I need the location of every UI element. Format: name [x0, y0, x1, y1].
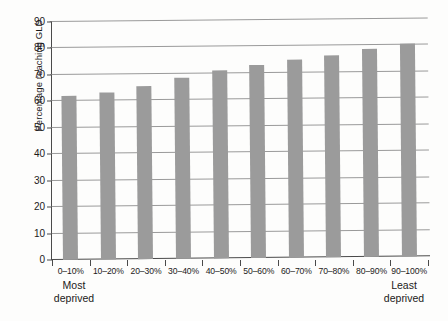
- bar-slot-30–40%: [162, 21, 202, 259]
- bar-slot-60–70%: [275, 19, 315, 257]
- plot-area: 0102030405060708090: [52, 22, 428, 260]
- bar[interactable]: [400, 44, 417, 257]
- bar-series: [50, 18, 428, 260]
- y-tick-label-0: 0: [6, 255, 52, 265]
- x-tick-label-10–20%: 10–20%: [90, 266, 128, 276]
- bar[interactable]: [362, 49, 379, 257]
- bar-slot-70–80%: [313, 19, 353, 257]
- x-tick-label-20–30%: 20–30%: [127, 266, 165, 276]
- y-tick-label-90: 90: [6, 17, 52, 27]
- annotation-least-deprived-line1: Least: [366, 279, 442, 292]
- bar[interactable]: [287, 59, 304, 257]
- annotation-least-deprived-line2: deprived: [366, 292, 442, 305]
- bar[interactable]: [324, 55, 341, 257]
- bar[interactable]: [249, 65, 266, 258]
- x-axis-tick-labels: 0–10%10–20%20–30%30–40%40–50%50–60%60–70…: [52, 266, 428, 276]
- y-tick-label-20: 20: [6, 202, 52, 212]
- x-tick-label-0–10%: 0–10%: [52, 266, 90, 276]
- y-tick-label-40: 40: [6, 149, 52, 159]
- grid-and-bars-layer: [50, 18, 428, 260]
- x-tick-label-60–70%: 60–70%: [278, 266, 316, 276]
- annotation-most-deprived-line1: Most: [38, 279, 110, 292]
- bar[interactable]: [137, 86, 154, 259]
- bar-slot-20–30%: [125, 21, 165, 259]
- figure-page: Percentage reaching GLD 0102030405060708…: [0, 0, 448, 321]
- bar-slot-50–60%: [238, 20, 278, 258]
- y-tick-label-30: 30: [6, 176, 52, 186]
- annotation-most-deprived-line2: deprived: [38, 292, 110, 305]
- bar[interactable]: [212, 71, 229, 259]
- y-tick-label-10: 10: [6, 229, 52, 239]
- x-tick-mark-10: [428, 260, 429, 266]
- x-tick-label-40–50%: 40–50%: [202, 266, 240, 276]
- bar-slot-0–10%: [50, 22, 90, 260]
- bar-slot-80–90%: [350, 19, 390, 257]
- y-tick-label-60: 60: [6, 96, 52, 106]
- bar[interactable]: [99, 93, 116, 260]
- bar-slot-10–20%: [87, 21, 127, 259]
- y-tick-label-80: 80: [6, 43, 52, 53]
- x-axis-line: [52, 260, 428, 261]
- bar[interactable]: [62, 96, 79, 260]
- bar-slot-90–100%: [388, 18, 428, 256]
- x-tick-label-90–100%: 90–100%: [390, 266, 428, 276]
- annotation-least-deprived: Least deprived: [366, 279, 442, 305]
- x-tick-label-80–90%: 80–90%: [353, 266, 391, 276]
- x-tick-label-70–80%: 70–80%: [315, 266, 353, 276]
- bar[interactable]: [174, 78, 191, 259]
- x-tick-label-30–40%: 30–40%: [165, 266, 203, 276]
- bar-chart: Percentage reaching GLD 0102030405060708…: [0, 0, 448, 321]
- y-tick-label-70: 70: [6, 70, 52, 80]
- annotation-most-deprived: Most deprived: [38, 279, 110, 305]
- y-tick-label-50: 50: [6, 123, 52, 133]
- x-tick-label-50–60%: 50–60%: [240, 266, 278, 276]
- bar-slot-40–50%: [200, 20, 240, 258]
